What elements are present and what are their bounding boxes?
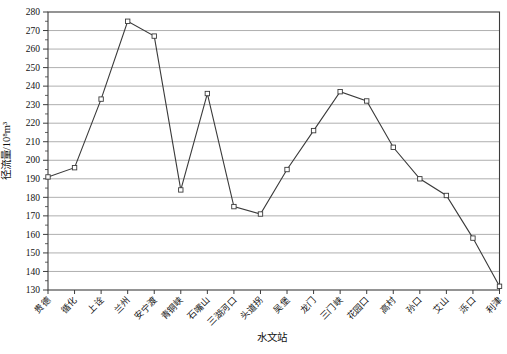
x-category-label: 龙门 [297,295,318,316]
data-point [205,91,209,95]
y-tick-label: 260 [26,44,41,54]
y-tick-label: 240 [26,81,41,91]
y-tick-label: 190 [26,174,41,184]
chart-canvas: 1301401501601701801902002102202302402502… [0,0,507,354]
x-category-label: 上诠 [85,295,106,316]
y-tick-label: 130 [26,285,41,295]
data-point [46,175,50,179]
data-point [258,212,262,216]
x-category-label: 贵德 [32,295,53,316]
x-category-label: 吴堡 [271,295,292,316]
chart-plot-area: 1301401501601701801902002102202302402502… [26,7,504,328]
x-category-label: 泺口 [457,295,478,316]
y-tick-label: 210 [26,137,41,147]
data-point [471,236,475,240]
y-tick-label: 180 [26,193,41,203]
runoff-line-chart: 1301401501601701801902002102202302402502… [0,0,507,354]
data-point [391,145,395,149]
data-point [99,97,103,101]
x-category-label: 青铜峡 [158,295,185,322]
data-point [418,177,422,181]
x-category-label: 头道拐 [238,295,265,322]
data-point [125,19,129,23]
y-axis-title: 径流量/10⁸m³ [0,122,12,180]
x-axis-title: 水文站 [257,331,288,343]
y-tick-label: 230 [26,100,41,110]
data-point [179,188,183,192]
data-point [232,204,236,208]
y-tick-label: 220 [26,118,41,128]
x-category-label: 三门峡 [318,295,345,322]
x-category-label: 利津 [483,295,504,316]
data-point [152,34,156,38]
y-tick-label: 150 [26,248,41,258]
y-tick-label: 270 [26,26,41,36]
x-category-label: 三湖河口 [205,295,238,328]
plot-frame [48,12,500,290]
y-tick-label: 280 [26,7,41,17]
data-point [285,167,289,171]
data-point [72,165,76,169]
x-category-label: 孙口 [404,295,425,316]
x-category-label: 花园口 [344,295,371,322]
y-tick-label: 200 [26,155,41,165]
x-category-label: 循化 [58,295,79,316]
data-point [338,89,342,93]
data-point [444,193,448,197]
x-category-label: 兰州 [112,295,133,316]
y-tick-label: 250 [26,63,41,73]
y-tick-label: 140 [26,267,41,277]
data-point [365,99,369,103]
data-point [311,128,315,132]
x-category-label: 艾山 [431,295,451,315]
x-category-label: 高村 [377,295,398,316]
y-tick-label: 160 [26,230,41,240]
data-point [497,284,501,288]
y-tick-label: 170 [26,211,41,221]
x-category-label: 安宁渡 [132,295,159,322]
data-line [48,21,500,286]
